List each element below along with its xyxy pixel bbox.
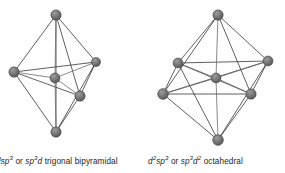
caption-layer: dsp3 or sp3d trigonal bipyramidal d2sp3 … — [0, 148, 285, 173]
atom-trigonal-bipyramidal-equatorial-right — [91, 57, 100, 66]
bond-trigonal-bipyramidal-1 — [56, 15, 96, 62]
atom-trigonal-bipyramidal-equatorial-left — [9, 67, 19, 77]
bond-octahedral-1 — [218, 15, 268, 61]
atom-octahedral-axial-top — [213, 10, 223, 20]
caption-right-conjunction: or — [169, 157, 181, 166]
bond-trigonal-bipyramidal-0 — [14, 15, 56, 72]
bond-octahedral-17 — [216, 78, 251, 94]
bond-octahedral-15 — [178, 63, 216, 78]
bond-octahedral-8 — [178, 61, 268, 63]
atom-trigonal-bipyramidal-axial-bottom — [51, 127, 61, 137]
caption-right-geometry: octahedral — [201, 157, 243, 166]
atom-trigonal-bipyramidal-equatorial-front — [75, 91, 85, 101]
caption-left-hyb2-base: sp — [25, 157, 34, 166]
bond-octahedral-3 — [163, 15, 218, 94]
caption-right-hyb1-mid: sp — [156, 157, 165, 166]
bond-octahedral-18 — [163, 78, 216, 94]
bond-octahedral-6 — [218, 94, 251, 140]
bond-trigonal-bipyramidal-6 — [56, 96, 80, 132]
bond-octahedral-5 — [218, 61, 268, 140]
atom-octahedral-equatorial-front-right — [246, 89, 256, 99]
caption-octahedral: d2sp3 or sp3d2 octahedral — [148, 156, 243, 167]
structure-trigonal-bipyramidal — [9, 10, 101, 137]
caption-left-hyb1-sub: sp — [1, 157, 10, 166]
bond-octahedral-7 — [163, 94, 218, 140]
caption-trigonal-bipyramidal: dsp3 or sp3d trigonal bipyramidal — [0, 156, 118, 167]
bond-trigonal-bipyramidal-9 — [14, 72, 80, 96]
atom-octahedral-center — [211, 73, 221, 83]
caption-left-geometry: trigonal bipyramidal — [42, 157, 117, 166]
bond-octahedral-19 — [216, 78, 218, 140]
atom-trigonal-bipyramidal-axial-top — [51, 10, 61, 20]
atom-octahedral-equatorial-back-left — [173, 58, 183, 68]
bond-trigonal-bipyramidal-4 — [14, 72, 56, 132]
bond-octahedral-0 — [178, 15, 218, 63]
atom-octahedral-equatorial-front-left — [158, 89, 169, 100]
caption-left-conjunction: or — [13, 157, 25, 166]
bond-octahedral-4 — [178, 63, 218, 140]
atom-group-octahedral — [158, 10, 273, 146]
bond-octahedral-14 — [216, 15, 218, 78]
atom-trigonal-bipyramidal-center — [50, 73, 60, 83]
bond-trigonal-bipyramidal-2 — [56, 15, 80, 96]
atom-octahedral-equatorial-back-right — [263, 56, 273, 66]
caption-right-hyb2-base: sp — [181, 157, 190, 166]
bond-trigonal-bipyramidal-11 — [14, 72, 55, 78]
figure-root: dsp3 or sp3d trigonal bipyramidal d2sp3 … — [0, 0, 285, 173]
atom-octahedral-axial-bottom — [213, 135, 224, 146]
structure-octahedral — [158, 10, 273, 146]
